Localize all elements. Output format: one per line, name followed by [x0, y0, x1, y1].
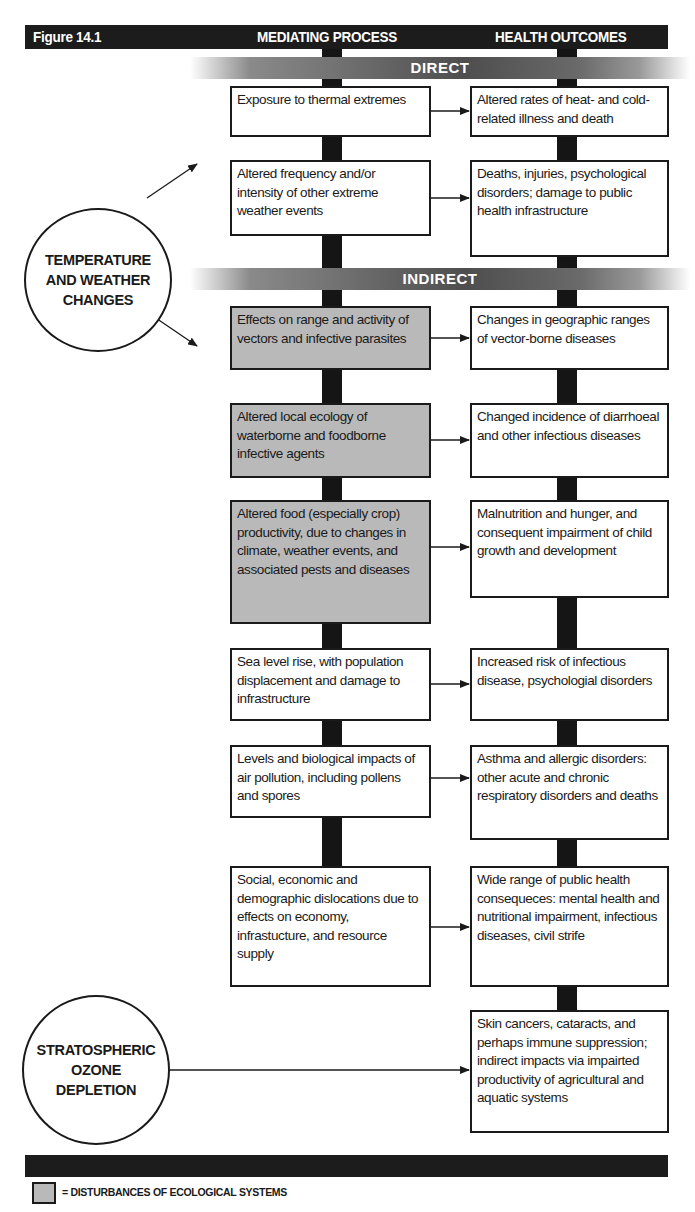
circle-label-line: CHANGES	[45, 290, 151, 310]
arrow-diagonal-icon	[147, 164, 197, 198]
circle-label-line: TEMPERATURE	[45, 250, 151, 270]
circle-label-line: OZONE	[37, 1060, 156, 1080]
legend-swatch-ecological	[32, 1182, 56, 1204]
circle-label-line: AND WEATHER	[45, 270, 151, 290]
legend-text: = DISTURBANCES OF ECOLOGICAL SYSTEMS	[62, 1186, 287, 1198]
source-circle-temperature: TEMPERATURE AND WEATHER CHANGES	[24, 208, 172, 352]
circle-label-line: STRATOSPHERIC	[37, 1040, 156, 1060]
figure-footer-bar	[25, 1155, 668, 1177]
source-circle-ozone: STRATOSPHERIC OZONE DEPLETION	[22, 995, 170, 1145]
circle-label-line: DEPLETION	[37, 1080, 156, 1100]
